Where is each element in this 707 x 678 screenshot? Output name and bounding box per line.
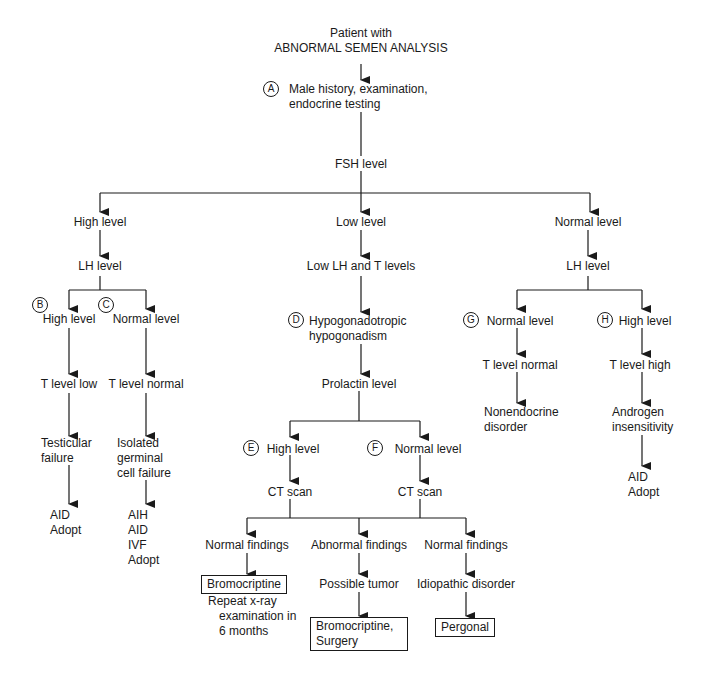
- badge-c: C: [98, 297, 114, 313]
- badge-a: A: [263, 81, 279, 97]
- bromocriptine-surgery-box: Bromocriptine, Surgery: [310, 617, 408, 651]
- testicular-failure-treatments: AID Adopt: [50, 508, 81, 538]
- right-lh-level-node: LH level: [566, 259, 609, 274]
- badge-e: E: [243, 440, 259, 456]
- bromocriptine-box: Bromocriptine: [201, 575, 287, 594]
- badge-b: B: [32, 297, 48, 313]
- prolactin-normal-node: Normal level: [395, 442, 462, 457]
- fsh-low-node: Low level: [336, 215, 386, 230]
- lh-normal-node: Normal level: [113, 312, 180, 327]
- step-a-node: Male history, examination, endocrine tes…: [289, 82, 428, 112]
- nonendocrine-disorder-node: Nonendocrine disorder: [484, 405, 559, 435]
- lh-high-node: High level: [43, 312, 96, 327]
- d-line-2: hypogonadism: [309, 329, 406, 344]
- dx-line-1: Isolated: [117, 436, 171, 451]
- step-a-line-2: endocrine testing: [289, 97, 428, 112]
- dx-line-1: Nonendocrine: [484, 405, 559, 420]
- prolactin-high-node: High level: [267, 442, 320, 457]
- abnormal-findings-node: Abnormal findings: [311, 538, 407, 553]
- fsh-high-node: High level: [74, 215, 127, 230]
- treatment-item: AIH: [128, 508, 159, 523]
- hypogonadotropic-hypogonadism-node: Hypogonadotropic hypogonadism: [309, 314, 406, 344]
- treatment-item: IVF: [128, 538, 159, 553]
- note-line-3: 6 months: [208, 624, 296, 639]
- isolated-germinal-cell-failure-node: Isolated germinal cell failure: [117, 436, 171, 481]
- right-lh-normal-node: Normal level: [487, 314, 554, 329]
- normal-findings-2-node: Normal findings: [424, 538, 507, 553]
- badge-f: F: [367, 440, 383, 456]
- ct-scan-e-node: CT scan: [268, 485, 312, 500]
- t-level-high-node: T level high: [609, 358, 670, 373]
- repeat-xray-note: Repeat x-ray examination in 6 months: [208, 594, 296, 639]
- fsh-level-node: FSH level: [335, 157, 387, 172]
- dx-line-2: insensitivity: [612, 420, 673, 435]
- germinal-failure-treatments: AIH AID IVF Adopt: [128, 508, 159, 568]
- title-line-1: Patient with: [274, 26, 447, 41]
- treatment-item: AID: [628, 470, 659, 485]
- title-line-2: ABNORMAL SEMEN ANALYSIS: [274, 41, 447, 56]
- treatment-item: Adopt: [50, 523, 81, 538]
- t-level-normal-left-node: T level normal: [108, 377, 183, 392]
- dx-line-1: Androgen: [612, 405, 673, 420]
- d-line-1: Hypogonadotropic: [309, 314, 406, 329]
- treatment-item: Adopt: [628, 485, 659, 500]
- dx-line-2: disorder: [484, 420, 559, 435]
- box-line-1: Bromocriptine,: [316, 619, 402, 634]
- note-line-1: Repeat x-ray: [208, 594, 296, 609]
- left-lh-level-node: LH level: [78, 259, 121, 274]
- box-line-2: Surgery: [316, 634, 402, 649]
- ct-scan-f-node: CT scan: [398, 485, 442, 500]
- badge-d: D: [288, 312, 304, 328]
- badge-h: H: [597, 312, 613, 328]
- fsh-normal-node: Normal level: [555, 215, 622, 230]
- prolactin-level-node: Prolactin level: [322, 377, 397, 392]
- right-lh-high-node: High level: [619, 314, 672, 329]
- pergonal-box: Pergonal: [435, 618, 495, 637]
- dx-line-3: cell failure: [117, 466, 171, 481]
- treatment-item: AID: [50, 508, 81, 523]
- t-level-normal-right-node: T level normal: [482, 358, 557, 373]
- badge-g: G: [463, 312, 479, 328]
- possible-tumor-node: Possible tumor: [319, 577, 398, 592]
- dx-line-1: Testicular: [41, 436, 92, 451]
- androgen-insensitivity-treatments: AID Adopt: [628, 470, 659, 500]
- androgen-insensitivity-node: Androgen insensitivity: [612, 405, 673, 435]
- root-node: Patient with ABNORMAL SEMEN ANALYSIS: [274, 26, 447, 56]
- dx-line-2: failure: [41, 451, 92, 466]
- low-lh-t-node: Low LH and T levels: [307, 259, 415, 274]
- idiopathic-disorder-node: Idiopathic disorder: [417, 577, 515, 592]
- t-level-low-node: T level low: [41, 377, 97, 392]
- step-a-line-1: Male history, examination,: [289, 82, 428, 97]
- flowchart-canvas: Patient with ABNORMAL SEMEN ANALYSIS A M…: [0, 0, 707, 678]
- dx-line-2: germinal: [117, 451, 171, 466]
- treatment-item: AID: [128, 523, 159, 538]
- note-line-2: examination in: [208, 609, 296, 624]
- testicular-failure-node: Testicular failure: [41, 436, 92, 466]
- treatment-item: Adopt: [128, 553, 159, 568]
- normal-findings-1-node: Normal findings: [205, 538, 288, 553]
